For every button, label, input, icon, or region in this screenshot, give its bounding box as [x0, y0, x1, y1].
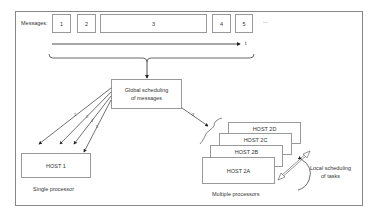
svg-text:5: 5 — [96, 124, 99, 129]
arrow-msg-3 — [182, 108, 208, 126]
svg-text:3: 3 — [192, 112, 195, 117]
diagram-connectors: 1 2 4 5 3 — [0, 0, 377, 219]
local-scheduling-curve — [298, 159, 310, 190]
messages-brace — [49, 54, 254, 62]
host-group-brace — [200, 118, 222, 144]
